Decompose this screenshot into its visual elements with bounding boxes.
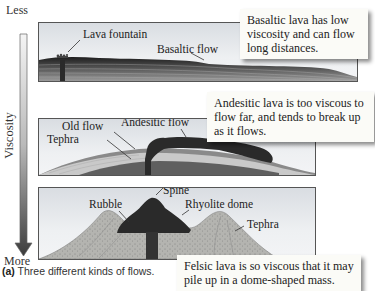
basaltic-flow-label: Basaltic flow bbox=[157, 43, 218, 55]
tephra-label-andesitic: Tephra bbox=[47, 133, 79, 145]
caption-tag: (a) bbox=[2, 265, 15, 277]
andesitic-callout: Andesitic lava is too viscous to flow fa… bbox=[207, 92, 374, 142]
felsic-panel: Spine Rubble Rhyolite dome Tephra bbox=[38, 187, 316, 260]
old-flow-label: Old flow bbox=[62, 120, 103, 132]
andesitic-flow-label: Andesitic flow bbox=[121, 118, 189, 128]
rhyolite-dome bbox=[117, 198, 191, 233]
felsic-callout: Felsic lava is so viscous that it may pi… bbox=[177, 255, 361, 291]
caption-text: Three different kinds of flows. bbox=[15, 265, 155, 277]
figure-caption: (a) Three different kinds of flows. bbox=[2, 265, 155, 277]
lava-vent bbox=[60, 59, 65, 81]
rubble-label: Rubble bbox=[89, 198, 122, 210]
basaltic-callout: Basaltic lava has low viscosity and can … bbox=[240, 9, 368, 59]
lava-fountain-label: Lava fountain bbox=[83, 28, 147, 40]
lava-fountain-icon bbox=[57, 54, 69, 58]
spine-label: Spine bbox=[163, 187, 189, 196]
tephra-label-felsic: Tephra bbox=[247, 218, 279, 230]
felsic-conduit bbox=[146, 232, 158, 259]
rhyolite-dome-label: Rhyolite dome bbox=[185, 198, 253, 210]
viscosity-arrow-shaft bbox=[15, 34, 32, 256]
